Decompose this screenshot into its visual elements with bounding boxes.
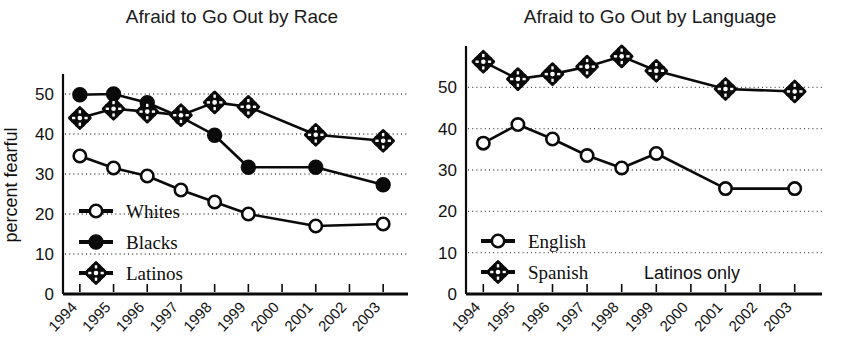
x-tick-label-1995: 1995 <box>483 298 518 334</box>
open-circle-marker <box>581 149 593 161</box>
legend-label-blacks: Blacks <box>126 232 178 253</box>
chart-annotation: Latinos only <box>644 263 740 283</box>
cross-marker-notch-e <box>730 88 733 90</box>
filled-circle-marker <box>208 129 221 142</box>
cross-marker-notch-w <box>375 140 378 142</box>
series-line-latinos <box>80 102 383 140</box>
cross-marker-notch-w <box>490 271 493 273</box>
marker-spanish <box>714 77 737 100</box>
series-line-spanish <box>483 56 794 91</box>
cross-marker-notch-n <box>551 66 553 69</box>
marker-spanish <box>610 45 633 68</box>
marker-latinos <box>372 129 395 152</box>
y-tick-label-10: 10 <box>438 244 457 263</box>
cross-marker-notch-w <box>510 78 513 80</box>
cross-marker-notch-w <box>649 70 652 72</box>
marker-whites <box>310 220 322 232</box>
cross-marker-notch-w <box>207 101 210 103</box>
legend-label-latinos: Latinos <box>126 263 183 284</box>
marker-english <box>719 182 731 194</box>
x-tick-label-2002: 2002 <box>314 298 349 334</box>
cross-marker-core <box>381 139 386 144</box>
open-circle-marker <box>175 184 187 196</box>
marker-legend <box>486 260 509 283</box>
series-latinos <box>80 102 383 140</box>
marker-whites <box>208 196 220 208</box>
cross-marker-notch-w <box>476 61 479 63</box>
x-tick-label-2003: 2003 <box>760 298 795 334</box>
cross-marker-notch-n <box>315 127 317 130</box>
cross-marker-notch-e <box>388 140 391 142</box>
marker-english <box>616 162 628 174</box>
x-tick-label-1996: 1996 <box>517 298 552 334</box>
cross-marker-notch-s <box>315 139 317 142</box>
y-tick-label-50: 50 <box>35 85 54 104</box>
x-tick-label-2001: 2001 <box>281 298 316 334</box>
cross-marker-notch-n <box>180 107 182 110</box>
series-spanish <box>483 56 794 91</box>
cross-marker-notch-e <box>219 101 222 103</box>
cross-marker-notch-w <box>88 272 91 274</box>
y-axis-label: percent fearful <box>1 127 21 242</box>
cross-marker-notch-e <box>799 90 802 92</box>
chart-title: Afraid to Go Out by Race <box>126 6 338 27</box>
cross-marker-notch-n <box>497 264 499 267</box>
marker-legend <box>89 235 102 248</box>
series-markers-whites <box>74 150 390 232</box>
cross-marker-core <box>94 271 99 276</box>
cross-marker-core <box>654 69 659 74</box>
marker-legend <box>492 235 504 247</box>
x-tick-label-1996: 1996 <box>112 298 147 334</box>
marker-whites <box>74 150 86 162</box>
marker-english <box>477 137 489 149</box>
filled-circle-marker <box>309 161 322 174</box>
marker-spanish <box>645 59 668 82</box>
marker-spanish <box>472 50 495 73</box>
cross-marker-core <box>78 116 83 121</box>
open-circle-marker <box>546 133 558 145</box>
cross-marker-notch-n <box>724 81 726 84</box>
y-tick-label-10: 10 <box>35 245 54 264</box>
cross-marker-core <box>246 105 251 110</box>
cross-marker-core <box>723 87 728 92</box>
marker-spanish <box>576 55 599 78</box>
open-circle-marker <box>616 162 628 174</box>
cross-marker-notch-n <box>79 110 81 113</box>
cross-marker-notch-w <box>139 110 142 112</box>
marker-latinos <box>136 100 159 123</box>
cross-marker-notch-e <box>592 65 595 67</box>
y-tick-label-30: 30 <box>35 165 54 184</box>
cross-marker-core <box>111 107 116 112</box>
chart-figure: Afraid to Go Out by Racepercent fearful0… <box>0 0 844 346</box>
marker-latinos <box>304 123 327 146</box>
open-circle-marker <box>74 150 86 162</box>
cross-marker-notch-s <box>180 120 182 123</box>
series-line-english <box>483 125 794 189</box>
cross-marker-notch-w <box>787 90 790 92</box>
chart-panel-race: Afraid to Go Out by Racepercent fearful0… <box>0 0 422 346</box>
marker-spanish <box>506 67 529 90</box>
marker-whites <box>107 162 119 174</box>
x-tick-label-2000: 2000 <box>656 298 691 334</box>
open-circle-marker <box>141 170 153 182</box>
cross-marker-notch-w <box>72 117 75 119</box>
legend-marker <box>79 261 113 284</box>
open-circle-marker <box>719 182 731 194</box>
cross-marker-notch-s <box>112 113 114 116</box>
cross-marker-notch-s <box>621 61 623 64</box>
open-circle-marker <box>492 235 504 247</box>
marker-whites <box>377 218 389 230</box>
marker-legend <box>90 205 102 217</box>
cross-marker-core <box>179 113 184 118</box>
cross-marker-notch-n <box>146 104 148 107</box>
marker-latinos <box>102 97 125 120</box>
chart-svg: Afraid to Go Out by Language010203040501… <box>422 0 844 346</box>
open-circle-marker <box>208 196 220 208</box>
cross-marker-notch-e <box>557 73 560 75</box>
marker-latinos <box>203 91 226 114</box>
series-markers-blacks <box>73 87 390 191</box>
open-circle-marker <box>477 137 489 149</box>
cross-marker-core <box>550 72 555 77</box>
cross-marker-notch-n <box>112 101 114 104</box>
marker-whites <box>242 208 254 220</box>
